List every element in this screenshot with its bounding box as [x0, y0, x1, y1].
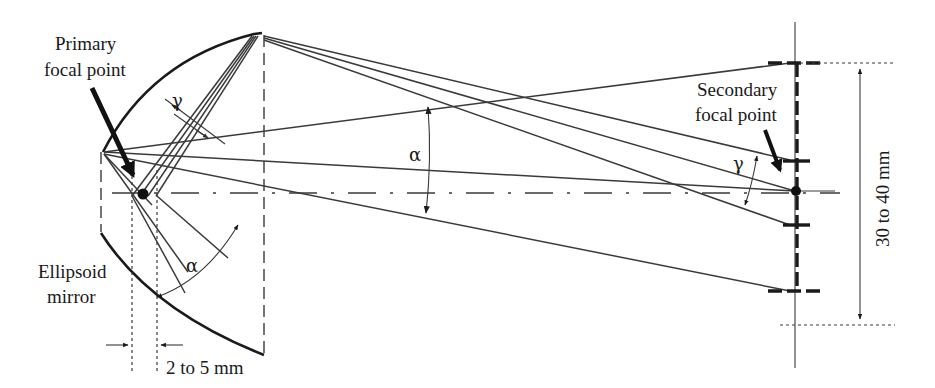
alpha-label-middle: α	[409, 144, 421, 165]
ellipsoid-mirror-lower	[101, 233, 264, 355]
spot-range-label: 30 to 40 mm	[872, 150, 893, 247]
rays-top-rim-to-image	[264, 36, 795, 225]
alpha-arc-middle	[426, 107, 430, 213]
secondary-focal-label-line1: Secondary	[697, 79, 778, 100]
secondary-focal-label-line2: focal point	[695, 104, 778, 125]
gamma-arc-secondary	[745, 156, 757, 205]
secondary-focal-point	[791, 186, 801, 196]
ellipsoid-mirror-label-line2: mirror	[47, 286, 96, 307]
primary-focal-label-line2: focal point	[44, 59, 127, 80]
defocus-range-label: 2 to 5 mm	[166, 357, 244, 378]
alpha-label-mirror: α	[186, 255, 198, 276]
ellipsoid-mirror-diagram: Primary focal point Secondary focal poin…	[0, 0, 935, 388]
secondary-focal-pointer-arrow	[765, 130, 780, 170]
gamma-label-secondary: γ	[733, 153, 744, 174]
alpha-ray-upper	[157, 196, 228, 258]
gamma-label-mirror: γ	[172, 90, 183, 111]
ellipsoid-mirror-label-line1: Ellipsoid	[38, 261, 107, 282]
rays-vertex-to-image	[104, 63, 795, 291]
primary-focal-label-line1: Primary	[55, 33, 117, 54]
primary-focal-point	[138, 189, 149, 200]
